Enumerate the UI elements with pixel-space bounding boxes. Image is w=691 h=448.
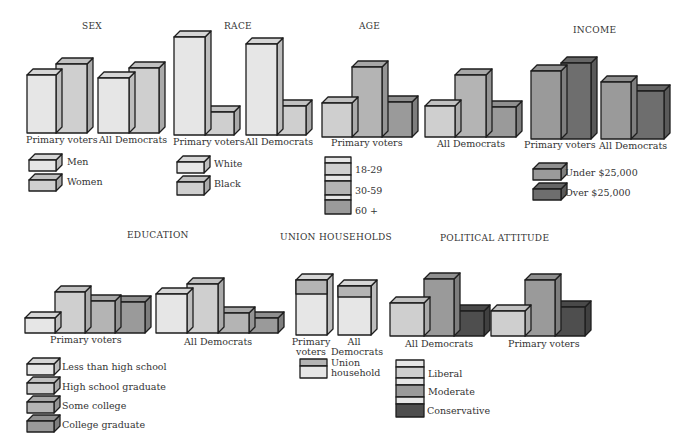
income-group-label-primary: Primary voters — [524, 139, 596, 150]
race-bar-g1-s0-top — [246, 38, 283, 44]
education-bar-g1-s0-top — [156, 288, 193, 294]
race-legend-swatch-black-top — [177, 176, 210, 182]
age-legend-60-plus: 60 + — [355, 205, 378, 216]
age-bar-g0-s1-top — [352, 61, 388, 67]
sex-legend-women: Women — [67, 176, 103, 187]
sex-legend-swatch-women-front — [29, 180, 56, 191]
union-legend-swatch-body — [300, 366, 327, 378]
sex-legend-swatch-men-front — [29, 160, 56, 171]
race-bar-g0-s0-side — [205, 31, 211, 135]
sex-legend-swatch-men-top — [29, 154, 62, 160]
age-legend-18-29: 18-29 — [355, 164, 382, 175]
sex-bar-g1-s0-top — [98, 72, 135, 78]
income-legend-under: Under $25,000 — [565, 167, 638, 178]
union-group-label-democrats-line2: Democrats — [331, 346, 383, 357]
attitude-legend-swatch-2 — [396, 378, 424, 385]
sex-bar-g0-s0-front — [27, 75, 56, 133]
union-group-label-primary: Primary voters — [290, 337, 332, 357]
attitude-bar-g1-s0-front — [491, 311, 525, 336]
attitude-legend-swatch-1 — [396, 367, 424, 378]
union-bar-g1-s0-union-band — [338, 286, 371, 297]
sex-bar-g0-s1-side — [87, 58, 93, 133]
income-legend-swatch-over-front — [533, 189, 561, 200]
income-bar-g0-s0-top — [531, 65, 567, 71]
education-bar-g0-s1-top — [55, 286, 91, 292]
sex-bar-g0-s0-top — [27, 69, 62, 75]
age-legend-swatch-1 — [325, 163, 351, 175]
education-bar-g1-s1-side — [218, 278, 224, 333]
attitude-legend-moderate: Moderate — [428, 386, 475, 397]
union-legend-swatch-band — [300, 359, 327, 366]
sex-bar-g1-s0-side — [129, 72, 135, 133]
education-legend-swatch-3-front — [27, 421, 54, 432]
attitude-legend-conservative: Conservative — [427, 405, 490, 416]
education-bar-g1-s0-side — [187, 288, 193, 333]
age-bar-g1-s1-top — [455, 69, 492, 75]
education-legend-some-college: Some college — [62, 400, 126, 411]
sex-legend-swatch-women-top — [29, 174, 62, 180]
union-bar-g1-s0-top — [338, 280, 377, 286]
sex-bar-g0-s1-top — [56, 58, 93, 64]
race-legend-black: Black — [214, 178, 241, 189]
age-bar-g1-s0-front — [425, 106, 455, 137]
education-bar-g1-s1-top — [187, 278, 224, 284]
education-legend-hs-graduate: High school graduate — [62, 381, 166, 392]
union-group-label-democrats: All Democrats — [331, 337, 377, 357]
age-legend-swatch-3 — [325, 181, 351, 195]
attitude-legend-liberal: Liberal — [428, 368, 462, 379]
income-bar-g1-s0-top — [601, 76, 637, 82]
income-bar-g0-s0-side — [561, 65, 567, 139]
race-group-label-primary: Primary voters — [173, 136, 245, 147]
age-legend-swatch-0 — [325, 157, 351, 163]
age-bar-g0-s2-side — [412, 96, 418, 137]
age-bar-g0-s1-side — [382, 61, 388, 137]
income-legend-swatch-under-top — [533, 163, 567, 169]
education-group-label-primary: Primary voters — [50, 334, 122, 345]
sex-bar-g1-s1-side — [159, 62, 165, 133]
union-bar-g0-s0-union-band — [296, 280, 327, 294]
union-legend-line2: household — [331, 367, 380, 378]
union-bar-g0-s0-side — [327, 274, 333, 335]
race-legend-white: White — [214, 158, 242, 169]
income-group-label-democrats: All Democrats — [599, 140, 667, 151]
education-legend-swatch-0-front — [27, 364, 54, 375]
income-legend-over: Over $25,000 — [565, 187, 631, 198]
race-bar-g1-s0-front — [246, 44, 277, 135]
age-bar-g0-s0-front — [322, 103, 352, 137]
race-bar-g0-s0-front — [174, 37, 205, 135]
income-bar-g1-s1-side — [664, 85, 670, 139]
education-legend-swatch-1-top — [27, 377, 60, 383]
age-group-label-primary: Primary voters — [331, 137, 403, 148]
education-group-label-democrats: All Democrats — [184, 336, 252, 347]
attitude-bar-g0-s0-front — [390, 303, 424, 336]
education-legend-college-graduate: College graduate — [62, 419, 145, 430]
attitude-bar-g1-s0-top — [491, 305, 531, 311]
education-bar-g0-s0-front — [25, 318, 55, 333]
income-bar-g0-s1-top — [561, 57, 597, 63]
education-legend-swatch-2-top — [27, 396, 60, 402]
union-group-label-primary-line2: voters — [296, 346, 326, 357]
age-bar-g1-s0-top — [425, 100, 461, 106]
education-legend-swatch-3-top — [27, 415, 60, 421]
attitude-bar-g1-s1-side — [555, 274, 561, 336]
union-legend-label: Union household — [331, 358, 380, 378]
education-bar-g0-s0-top — [25, 312, 61, 318]
race-group-label-democrats: All Democrats — [245, 136, 313, 147]
race-bar-g1-s0-side — [277, 38, 283, 135]
income-bar-g1-s0-side — [631, 76, 637, 139]
sex-bar-g0-s0-side — [56, 69, 62, 133]
attitude-bar-g1-s1-top — [525, 274, 561, 280]
education-legend-swatch-1-front — [27, 383, 54, 394]
age-legend-swatch-2 — [325, 175, 351, 181]
education-bar-g1-s0-front — [156, 294, 187, 333]
income-bar-g1-s0-front — [601, 82, 631, 139]
income-legend-swatch-under-front — [533, 169, 561, 180]
attitude-legend-swatch-5 — [396, 404, 424, 417]
age-bar-g0-s0-top — [322, 97, 358, 103]
race-legend-swatch-white-front — [177, 162, 204, 173]
attitude-legend-swatch-4 — [396, 397, 424, 404]
education-legend-swatch-0-top — [27, 358, 60, 364]
sex-group-label-primary: Primary voters — [26, 134, 98, 145]
age-legend-swatch-4 — [325, 195, 351, 200]
union-bar-g1-s0-side — [371, 280, 377, 335]
